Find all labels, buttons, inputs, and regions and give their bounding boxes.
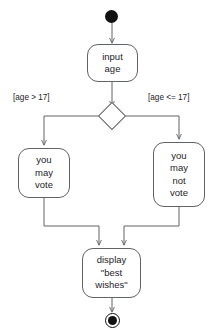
edge-decision-to-may-vote <box>44 116 102 145</box>
action-input-age-line-2: age <box>105 63 121 76</box>
action-display-line-3: wishes" <box>95 279 127 292</box>
final-node-core <box>108 316 117 325</box>
initial-node <box>105 10 118 23</box>
action-you-may-not-vote-line-4: vote <box>170 187 188 200</box>
guard-label-left: [age > 17] <box>13 93 50 103</box>
activity-diagram: input age [age > 17] [age <= 17] you may… <box>0 0 223 336</box>
action-display-line-2: "best <box>101 267 122 280</box>
action-you-may-vote-line-2: may <box>35 167 53 180</box>
action-input-age[interactable]: input age <box>87 44 138 82</box>
action-input-age-line-1: input <box>102 51 123 64</box>
guard-label-right: [age <= 17] <box>148 93 189 103</box>
action-display-best-wishes[interactable]: display "best wishes" <box>82 248 141 298</box>
action-you-may-vote-line-3: vote <box>35 179 53 192</box>
edge-may-not-vote-to-display <box>124 207 179 245</box>
final-node <box>105 313 120 328</box>
action-you-may-not-vote-line-3: not <box>172 175 185 188</box>
edge-decision-to-may-not-vote <box>122 116 179 139</box>
action-you-may-not-vote[interactable]: you may not vote <box>153 142 205 207</box>
action-you-may-not-vote-line-1: you <box>171 150 186 163</box>
action-you-may-not-vote-line-2: may <box>170 162 188 175</box>
edge-may-vote-to-display <box>44 198 99 245</box>
action-you-may-vote[interactable]: you may vote <box>18 148 70 198</box>
action-display-line-1: display <box>97 254 127 267</box>
action-you-may-vote-line-1: you <box>36 154 51 167</box>
